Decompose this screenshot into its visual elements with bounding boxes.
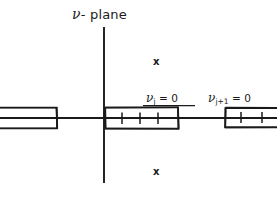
page-title: ν- plane: [72, 7, 127, 21]
plane-word: - plane: [81, 7, 127, 22]
pole-marker-upper: x: [153, 57, 159, 67]
nu-glyph: ν: [72, 6, 81, 22]
nu-plane-figure: ν- plane νj = 0 νj+1 = 0 x x: [0, 0, 277, 198]
equals-zero: = 0: [229, 92, 252, 104]
subscript-j-plus-1: j+1: [215, 97, 228, 106]
zero-label-j: νj = 0: [146, 92, 178, 106]
zero-label-j-plus-1: νj+1 = 0: [208, 92, 251, 106]
pole-marker-lower: x: [153, 167, 159, 177]
equals-zero: = 0: [156, 92, 179, 104]
